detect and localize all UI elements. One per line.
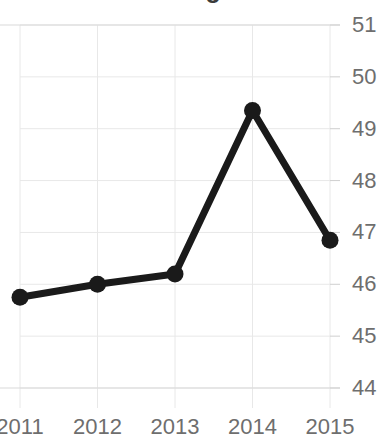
y-axis-tick-label: 48 [352, 168, 392, 194]
x-axis-tick-label: 2014 [228, 414, 277, 440]
x-axis-tick-label: 2012 [73, 414, 122, 440]
x-axis-tick-label: 2015 [306, 414, 355, 440]
axis-frame [0, 25, 340, 388]
y-axis-tick-label: 45 [352, 323, 392, 349]
data-point-marker [89, 276, 106, 293]
y-axis-tick-label: 46 [352, 271, 392, 297]
data-point-marker [244, 102, 261, 119]
data-point-marker [12, 289, 29, 306]
plot-area [20, 25, 330, 388]
chart-title: Median Age [0, 0, 330, 4]
x-axis-tick-label: 2011 [0, 414, 44, 440]
y-axis-tick-label: 50 [352, 64, 392, 90]
y-axis-tick-label: 49 [352, 116, 392, 142]
line-chart: Median Age 4445464748495051 201120122013… [0, 0, 392, 448]
plot-svg [20, 25, 330, 388]
grid-lines [20, 25, 330, 408]
y-axis-tick-label: 47 [352, 219, 392, 245]
data-point-marker [322, 232, 339, 249]
y-axis-tick-label: 44 [352, 375, 392, 401]
y-axis-tick-label: 51 [352, 12, 392, 38]
x-axis-tick-label: 2013 [151, 414, 200, 440]
data-point-marker [167, 265, 184, 282]
